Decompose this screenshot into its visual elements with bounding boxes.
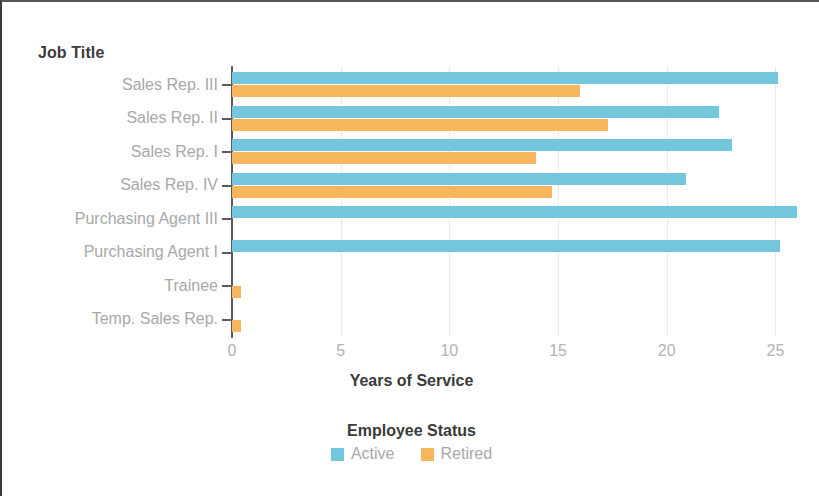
bar-row: Trainee xyxy=(232,269,808,303)
y-axis-tick xyxy=(222,185,232,187)
bar-active[interactable] xyxy=(232,173,686,185)
y-axis-tick xyxy=(222,84,232,86)
bar-row: Sales Rep. II xyxy=(232,102,808,136)
bar-active[interactable] xyxy=(232,106,719,118)
legend-label: Retired xyxy=(441,445,493,463)
category-label: Sales Rep. III xyxy=(122,76,218,94)
legend-swatch-retired xyxy=(421,448,434,461)
y-axis-tick xyxy=(222,252,232,254)
x-tick-label: 15 xyxy=(549,342,567,360)
y-axis-title: Job Title xyxy=(38,44,104,62)
category-label: Sales Rep. II xyxy=(126,109,218,127)
bar-active[interactable] xyxy=(232,240,780,252)
bar-retired[interactable] xyxy=(232,186,552,198)
plot-area: Sales Rep. IIISales Rep. IISales Rep. IS… xyxy=(232,68,808,336)
legend-items: ActiveRetired xyxy=(2,445,819,463)
bar-retired[interactable] xyxy=(232,119,608,131)
x-tick-label: 5 xyxy=(336,342,345,360)
legend-label: Active xyxy=(351,445,395,463)
bar-active[interactable] xyxy=(232,72,778,84)
legend-swatch-active xyxy=(331,448,344,461)
bar-active[interactable] xyxy=(232,139,732,151)
category-label: Sales Rep. IV xyxy=(120,176,218,194)
legend-title: Employee Status xyxy=(2,422,819,440)
bar-row: Temp. Sales Rep. xyxy=(232,303,808,337)
bar-row: Purchasing Agent III xyxy=(232,202,808,236)
x-tick-label: 25 xyxy=(766,342,784,360)
bar-retired[interactable] xyxy=(232,286,241,298)
category-label: Temp. Sales Rep. xyxy=(92,310,218,328)
x-tick-label: 20 xyxy=(658,342,676,360)
bar-retired[interactable] xyxy=(232,320,241,332)
y-axis-tick xyxy=(222,285,232,287)
x-axis-title: Years of Service xyxy=(2,372,819,390)
x-tick-label: 10 xyxy=(440,342,458,360)
bar-row: Sales Rep. IV xyxy=(232,169,808,203)
category-label: Purchasing Agent I xyxy=(84,243,218,261)
bar-retired[interactable] xyxy=(232,152,536,164)
legend-item-active[interactable]: Active xyxy=(331,445,395,463)
bar-row: Sales Rep. I xyxy=(232,135,808,169)
category-label: Purchasing Agent III xyxy=(75,210,218,228)
legend: Employee Status ActiveRetired xyxy=(2,422,819,463)
y-axis-tick xyxy=(222,319,232,321)
bar-row: Sales Rep. III xyxy=(232,68,808,102)
bar-active[interactable] xyxy=(232,206,797,218)
y-axis-tick xyxy=(222,218,232,220)
legend-item-retired[interactable]: Retired xyxy=(421,445,493,463)
bar-row: Purchasing Agent I xyxy=(232,236,808,270)
category-label: Trainee xyxy=(164,277,218,295)
category-label: Sales Rep. I xyxy=(131,143,218,161)
x-tick-label: 0 xyxy=(228,342,237,360)
chart-container: Job Title Sales Rep. IIISales Rep. IISal… xyxy=(0,0,819,496)
bar-retired[interactable] xyxy=(232,85,580,97)
y-axis-tick xyxy=(222,118,232,120)
y-axis-tick xyxy=(222,151,232,153)
